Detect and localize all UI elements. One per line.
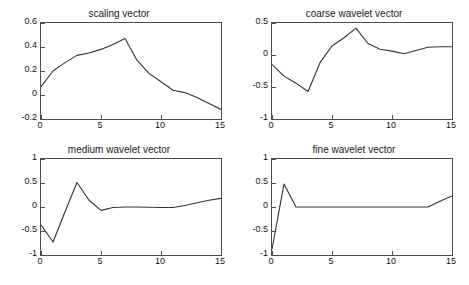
x-tick-label: 0 (259, 120, 283, 130)
y-tickmark (272, 87, 276, 88)
y-tick-label: 0 (245, 48, 268, 58)
plot-title-fine-wavelet-vector: fine wavelet vector (245, 144, 463, 156)
y-tickmark (41, 231, 45, 232)
data-line-1 (272, 23, 452, 119)
y-tickmark (272, 23, 276, 24)
x-tick-label: 15 (439, 256, 463, 266)
y-tick-label: -0.5 (14, 224, 37, 234)
y-tick-label: 0 (245, 200, 268, 210)
x-tick-label: 5 (88, 120, 112, 130)
plot-title-scaling-vector: scaling vector (14, 8, 224, 20)
axes-coarse-wavelet-vector (271, 22, 453, 120)
y-tick-label: 0.5 (245, 16, 268, 26)
data-line-0 (41, 23, 221, 119)
y-tickmark (41, 23, 45, 24)
series-line (41, 183, 221, 243)
x-tick-label: 5 (319, 256, 343, 266)
axes-medium-wavelet-vector (40, 158, 222, 256)
x-tickmark (452, 251, 453, 255)
y-tickmark (41, 183, 45, 184)
x-tickmark (41, 115, 42, 119)
y-tickmark (272, 183, 276, 184)
data-line-2 (41, 159, 221, 255)
y-tick-label: 0.4 (14, 40, 37, 50)
x-tickmark (161, 251, 162, 255)
x-tickmark (452, 115, 453, 119)
axes-scaling-vector (40, 22, 222, 120)
y-tickmark (272, 55, 276, 56)
y-tick-label: 0.5 (245, 176, 268, 186)
x-tickmark (332, 251, 333, 255)
x-tick-label: 10 (379, 256, 403, 266)
x-tick-label: 0 (28, 256, 52, 266)
y-tickmark (41, 95, 45, 96)
figure-canvas: scaling vector -0.200.20.40.6051015 coar… (0, 0, 469, 285)
x-tickmark (101, 251, 102, 255)
x-tick-label: 15 (208, 256, 232, 266)
y-tick-label: 0 (14, 200, 37, 210)
x-tickmark (101, 115, 102, 119)
y-tickmark (41, 47, 45, 48)
subplot-coarse-wavelet-vector: coarse wavelet vector -1-0.500.5051015 (245, 8, 463, 138)
y-tick-label: 0 (14, 88, 37, 98)
x-tickmark (221, 251, 222, 255)
x-tickmark (272, 251, 273, 255)
y-tick-label: 1 (245, 152, 268, 162)
x-tickmark (392, 251, 393, 255)
axes-fine-wavelet-vector (271, 158, 453, 256)
series-line (272, 184, 452, 249)
plot-title-coarse-wavelet-vector: coarse wavelet vector (245, 8, 463, 20)
x-tick-label: 0 (28, 120, 52, 130)
y-tick-label: 0.6 (14, 16, 37, 26)
series-line (41, 39, 221, 110)
x-tickmark (272, 115, 273, 119)
y-tickmark (272, 231, 276, 232)
x-tickmark (332, 115, 333, 119)
y-tickmark (272, 159, 276, 160)
y-tick-label: 0.5 (14, 176, 37, 186)
subplot-scaling-vector: scaling vector -0.200.20.40.6051015 (14, 8, 224, 138)
x-tick-label: 15 (208, 120, 232, 130)
y-tickmark (272, 207, 276, 208)
plot-title-medium-wavelet-vector: medium wavelet vector (14, 144, 224, 156)
x-tick-label: 5 (319, 120, 343, 130)
x-tickmark (221, 115, 222, 119)
y-tickmark (41, 207, 45, 208)
series-line (272, 28, 452, 91)
x-tick-label: 10 (379, 120, 403, 130)
data-line-3 (272, 159, 452, 255)
y-tick-label: 0.2 (14, 64, 37, 74)
subplot-fine-wavelet-vector: fine wavelet vector -1-0.500.51051015 (245, 144, 463, 276)
x-tick-label: 10 (148, 120, 172, 130)
x-tickmark (41, 251, 42, 255)
y-tickmark (41, 159, 45, 160)
x-tickmark (161, 115, 162, 119)
x-tick-label: 10 (148, 256, 172, 266)
y-tick-label: 1 (14, 152, 37, 162)
x-tick-label: 15 (439, 120, 463, 130)
y-tick-label: -0.5 (245, 224, 268, 234)
y-tick-label: -0.5 (245, 80, 268, 90)
x-tick-label: 5 (88, 256, 112, 266)
x-tickmark (392, 115, 393, 119)
y-tickmark (41, 71, 45, 72)
x-tick-label: 0 (259, 256, 283, 266)
subplot-medium-wavelet-vector: medium wavelet vector -1-0.500.51051015 (14, 144, 224, 276)
